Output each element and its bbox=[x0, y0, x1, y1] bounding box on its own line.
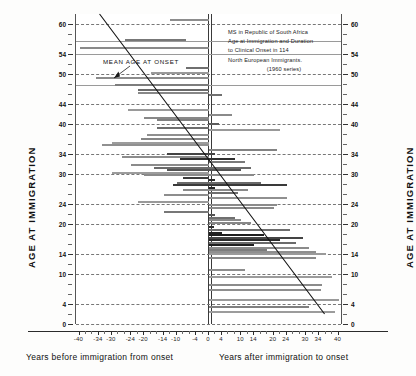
y-tick-label-left: 40 bbox=[55, 121, 66, 128]
x-tick bbox=[176, 331, 177, 335]
x-tick bbox=[299, 331, 300, 334]
title-line-2: Age at Immigration and Duration bbox=[228, 37, 340, 46]
y-tick-left bbox=[68, 304, 73, 305]
bar bbox=[209, 197, 287, 199]
gridline-50 bbox=[76, 74, 341, 75]
y-tick-right bbox=[343, 324, 348, 325]
y-tick-left bbox=[68, 254, 73, 255]
y-tick-left bbox=[68, 154, 73, 155]
y-tick-right bbox=[343, 204, 348, 205]
x-tick-label: -24 bbox=[126, 336, 135, 342]
bar bbox=[80, 47, 210, 49]
y-tick-right bbox=[343, 144, 347, 145]
y-tick-left bbox=[68, 104, 73, 105]
x-tick bbox=[292, 331, 293, 334]
x-tick bbox=[325, 331, 326, 334]
y-tick-left bbox=[68, 34, 72, 35]
bar bbox=[209, 269, 245, 271]
x-tick bbox=[305, 331, 306, 335]
y-tick-left bbox=[68, 184, 72, 185]
x-tick-label: 4 bbox=[219, 336, 223, 342]
x-tick bbox=[286, 331, 287, 335]
y-tick-left bbox=[68, 324, 73, 325]
bar bbox=[157, 119, 209, 121]
bar bbox=[209, 234, 264, 236]
bar bbox=[209, 226, 214, 228]
bar bbox=[102, 144, 209, 146]
bar bbox=[209, 207, 274, 209]
x-tick bbox=[156, 331, 157, 334]
y-tick-right bbox=[343, 104, 348, 105]
x-tick bbox=[143, 331, 144, 335]
bar bbox=[141, 138, 209, 140]
y-tick-right bbox=[343, 74, 348, 75]
x-tick bbox=[117, 331, 118, 334]
x-tick bbox=[79, 331, 80, 335]
y-tick-label-right: 10 bbox=[351, 271, 358, 278]
y-tick-left bbox=[68, 94, 72, 95]
bar bbox=[209, 114, 232, 116]
x-tick bbox=[221, 331, 222, 335]
y-tick-right bbox=[343, 284, 347, 285]
y-tick-left bbox=[68, 284, 72, 285]
bar bbox=[209, 204, 277, 206]
y-axis-title-left: AGE AT IMMIGRATION bbox=[26, 147, 37, 268]
bar bbox=[167, 153, 216, 155]
y-tick-left bbox=[68, 74, 73, 75]
y-tick-right bbox=[343, 224, 348, 225]
bar bbox=[96, 77, 209, 79]
y-tick-label-left: 0 bbox=[55, 321, 66, 328]
bar bbox=[186, 67, 209, 69]
bar bbox=[125, 39, 187, 41]
y-tick-left bbox=[68, 204, 73, 205]
y-tick-label-left: 50 bbox=[55, 71, 66, 78]
bar bbox=[209, 129, 280, 131]
bar bbox=[164, 194, 209, 196]
x-tick bbox=[253, 331, 254, 335]
bar bbox=[173, 184, 286, 186]
x-tick bbox=[234, 331, 235, 334]
y-tick-right bbox=[343, 34, 347, 35]
y-tick-left bbox=[68, 134, 72, 135]
x-tick bbox=[111, 331, 112, 335]
x-tick bbox=[227, 331, 228, 334]
y-tick-right bbox=[343, 314, 347, 315]
y-tick-label-left: 30 bbox=[55, 171, 66, 178]
y-tick-left bbox=[68, 294, 72, 295]
y-tick-right bbox=[343, 264, 347, 265]
y-tick-label-left: 34 bbox=[55, 151, 66, 158]
x-tick bbox=[240, 331, 241, 335]
x-tick bbox=[331, 331, 332, 334]
y-tick-label-left: 44 bbox=[55, 101, 66, 108]
y-tick-left bbox=[68, 174, 73, 175]
x-tick bbox=[137, 331, 138, 334]
y-tick-label-right: 20 bbox=[351, 221, 358, 228]
y-tick-left bbox=[68, 164, 72, 165]
bar bbox=[209, 219, 241, 221]
y-tick-label-right: 44 bbox=[351, 101, 358, 108]
x-tick bbox=[338, 331, 339, 335]
bar bbox=[144, 174, 254, 176]
y-tick-label-right: 24 bbox=[351, 201, 358, 208]
y-tick-left bbox=[68, 24, 73, 25]
y-tick-right bbox=[343, 154, 348, 155]
y-tick-right bbox=[343, 194, 347, 195]
x-tick bbox=[208, 331, 209, 335]
y-tick-right bbox=[343, 164, 347, 165]
bar bbox=[209, 244, 254, 246]
y-tick-label-right: 14 bbox=[351, 251, 358, 258]
x-axis-title-left: Years before immigration from onset bbox=[26, 352, 173, 362]
x-tick bbox=[182, 331, 183, 334]
y-tick-left bbox=[68, 144, 72, 145]
y-tick-left bbox=[68, 234, 72, 235]
bar bbox=[209, 229, 290, 231]
gridline-60 bbox=[76, 24, 341, 25]
mean-age-annotation: MEAN AGE AT ONSET bbox=[103, 58, 179, 65]
y-tick-right bbox=[343, 84, 347, 85]
x-tick bbox=[318, 331, 319, 335]
chart-title-block: MS in Republic of South Africa Age at Im… bbox=[228, 28, 340, 74]
gridline-20 bbox=[76, 224, 341, 225]
x-tick-label: -30 bbox=[106, 336, 115, 342]
bar bbox=[183, 189, 248, 191]
bar bbox=[180, 158, 235, 160]
